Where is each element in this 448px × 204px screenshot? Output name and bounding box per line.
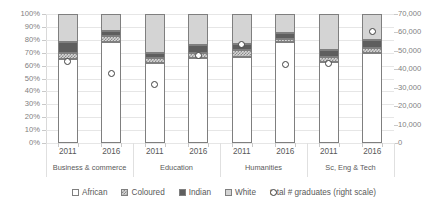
bar-segment-white (232, 14, 252, 44)
bar-segment-indian (319, 50, 339, 56)
bar-segment-white (275, 14, 295, 33)
legend-swatch-african-icon (72, 189, 79, 196)
bar-stack (188, 14, 208, 143)
gridline (46, 117, 394, 118)
group-separator (307, 143, 308, 177)
y-tick-label: 70% (2, 49, 40, 57)
x-tick-mark (165, 143, 166, 147)
y-tick-label: 20% (2, 113, 40, 121)
bar-segment-african (58, 59, 78, 143)
stacked-bar-chart: 0%10%20%30%40%50%60%70%80%90%100% 010,00… (0, 0, 448, 204)
bar-segment-indian (58, 42, 78, 52)
group-separator (394, 143, 395, 177)
x-tick-mark (58, 143, 59, 147)
x-tick-label-year: 2011 (220, 147, 264, 156)
y-tick-label: 60% (2, 62, 40, 70)
x-tick-mark (339, 143, 340, 147)
plot-area (46, 14, 394, 143)
y-tick-mark (42, 117, 46, 118)
bar-segment-white (58, 14, 78, 42)
y2-tick-mark (394, 14, 398, 15)
y2-tick-mark (394, 32, 398, 33)
chart-legend: AfricanColouredIndianWhitetotal # gradua… (0, 183, 448, 201)
legend-label: total # graduates (right scale) (270, 188, 376, 197)
bar-segment-coloured (362, 48, 382, 53)
x-tick-mark (101, 143, 102, 147)
y-tick-mark (42, 91, 46, 92)
y2-tick-label: 30,000 (398, 84, 444, 92)
x-tick-label-year: 2016 (177, 147, 221, 156)
y2-tick-label: 10,000 (398, 121, 444, 129)
x-tick-mark (232, 143, 233, 147)
x-tick-mark (121, 143, 122, 147)
bar-segment-indian (101, 31, 121, 36)
legend-label: White (235, 188, 256, 197)
y2-tick-mark (394, 125, 398, 126)
x-tick-mark (275, 143, 276, 147)
y-tick-mark (42, 104, 46, 105)
legend-swatch-marker-icon (270, 189, 277, 196)
bar-segment-african (362, 53, 382, 143)
y2-tick-label: 60,000 (398, 28, 444, 36)
bar-segment-indian (275, 33, 295, 38)
y-tick-label: 90% (2, 23, 40, 31)
y-tick-label: 80% (2, 36, 40, 44)
y-tick-mark (42, 79, 46, 80)
x-tick-label-year: 2011 (307, 147, 351, 156)
legend-swatch-white-icon (225, 189, 232, 196)
bar-segment-white (362, 14, 382, 40)
bar-stack (145, 14, 165, 143)
y2-tick-label: 70,000 (398, 10, 444, 18)
bar-stack (319, 14, 339, 143)
y-tick-label: 0% (2, 139, 40, 147)
y2-tick-label: 20,000 (398, 102, 444, 110)
bar-segment-coloured (145, 58, 165, 63)
x-tick-mark (188, 143, 189, 147)
x-tick-label-year: 2011 (46, 147, 90, 156)
gridline (46, 14, 394, 15)
y-tick-label: 50% (2, 75, 40, 83)
bar-segment-white (145, 14, 165, 53)
legend-swatch-coloured-icon (121, 189, 128, 196)
y-tick-mark (42, 66, 46, 67)
bar-segment-african (319, 62, 339, 143)
y-tick-mark (42, 130, 46, 131)
y-tick-mark (42, 14, 46, 15)
bar-segment-white (188, 14, 208, 45)
x-tick-mark (382, 143, 383, 147)
legend-item[interactable]: African (72, 188, 107, 197)
y2-tick-mark (394, 69, 398, 70)
bar-segment-african (232, 57, 252, 143)
x-tick-label-year: 2016 (351, 147, 395, 156)
x-group-label: Sc, Eng & Tech (307, 163, 394, 172)
x-tick-mark (319, 143, 320, 147)
legend-swatch-indian-icon (179, 189, 186, 196)
y2-tick-mark (394, 88, 398, 89)
legend-item[interactable]: total # graduates (right scale) (270, 188, 376, 197)
bar-segment-white (101, 14, 121, 31)
bar-stack (275, 14, 295, 143)
x-tick-mark (295, 143, 296, 147)
gridline (46, 27, 394, 28)
bar-segment-african (101, 42, 121, 143)
y-tick-mark (42, 53, 46, 54)
y-tick-mark (42, 27, 46, 28)
x-tick-label-year: 2016 (264, 147, 308, 156)
bar-segment-coloured (275, 39, 295, 43)
x-tick-mark (78, 143, 79, 147)
y-tick-label: 30% (2, 100, 40, 108)
bar-stack (101, 14, 121, 143)
bar-segment-white (319, 14, 339, 50)
x-tick-mark (208, 143, 209, 147)
legend-item[interactable]: Coloured (121, 188, 164, 197)
y2-tick-mark (394, 106, 398, 107)
legend-item[interactable]: White (225, 188, 256, 197)
legend-label: Coloured (131, 188, 164, 197)
x-tick-label-year: 2016 (90, 147, 134, 156)
x-tick-mark (252, 143, 253, 147)
bar-stack (232, 14, 252, 143)
bar-segment-african (188, 58, 208, 143)
legend-item[interactable]: Indian (179, 188, 211, 197)
y2-tick-mark (394, 51, 398, 52)
x-group-label: Education (133, 163, 220, 172)
